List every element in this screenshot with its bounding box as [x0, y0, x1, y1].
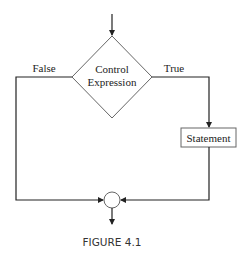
flowchart: Control Expression False True Statement …	[0, 0, 248, 254]
decision-text-line2: Expression	[88, 76, 137, 88]
true-branch-line	[152, 77, 209, 127]
statement-to-merge-line	[121, 147, 209, 200]
figure-caption: FIGURE 4.1	[83, 236, 142, 248]
decision-text-line1: Control	[95, 63, 129, 75]
false-label: False	[32, 62, 55, 74]
true-label: True	[164, 62, 184, 74]
merge-connector	[104, 192, 120, 208]
statement-text: Statement	[187, 132, 231, 144]
